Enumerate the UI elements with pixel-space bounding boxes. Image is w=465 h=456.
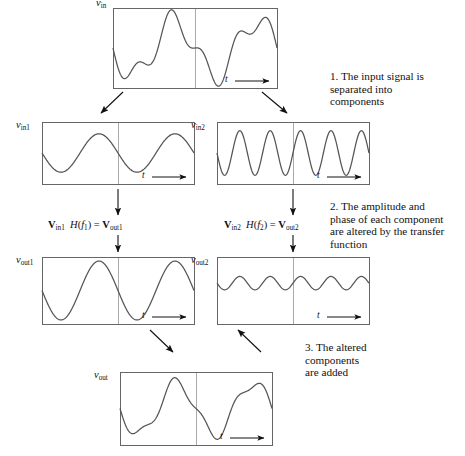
plot-panel-vout (120, 373, 273, 446)
xaxis-label-vin: t (225, 74, 228, 84)
xaxis-label-vin2: t (317, 170, 320, 180)
plot-panel-vout2 (217, 258, 370, 325)
flow-arrow-sum-left (150, 330, 173, 352)
transfer-equation-left: Vin1 H(f1) = Vout1 (48, 219, 123, 232)
note-step-3: 3. The altered components are added (305, 341, 425, 379)
plot-panel-vin (113, 9, 278, 89)
plot-panel-vout1 (42, 258, 195, 325)
panel-label-vin1: vin1 (16, 119, 30, 132)
panel-label-vout1: vout1 (16, 254, 33, 267)
flow-arrow-sum-right (238, 330, 261, 352)
panel-label-vout: vout (94, 369, 108, 382)
xaxis-label-vin1: t (142, 170, 145, 180)
panel-label-vout2: vout2 (191, 254, 208, 267)
flow-arrow-split-left (101, 92, 123, 113)
panel-label-vin2: vin2 (191, 119, 205, 132)
figure-canvas: vin vin1 vin2 vout1 vout2 vout t t t t t… (0, 0, 465, 456)
flow-arrow-split-right (262, 92, 287, 113)
transfer-equation-right: Vin2 H(f2) = Vout2 (224, 219, 299, 232)
plot-panel-vin1 (42, 123, 195, 185)
xaxis-label-vout2: t (317, 310, 320, 320)
plot-panel-vin2 (217, 123, 370, 185)
xaxis-label-vout1: t (142, 310, 145, 320)
note-step-2: 2. The amplitude and phase of each compo… (330, 200, 465, 250)
panel-label-vin: vin (96, 0, 106, 10)
note-step-1: 1. The input signal is separated into co… (330, 70, 462, 108)
xaxis-label-vout: t (220, 431, 223, 441)
